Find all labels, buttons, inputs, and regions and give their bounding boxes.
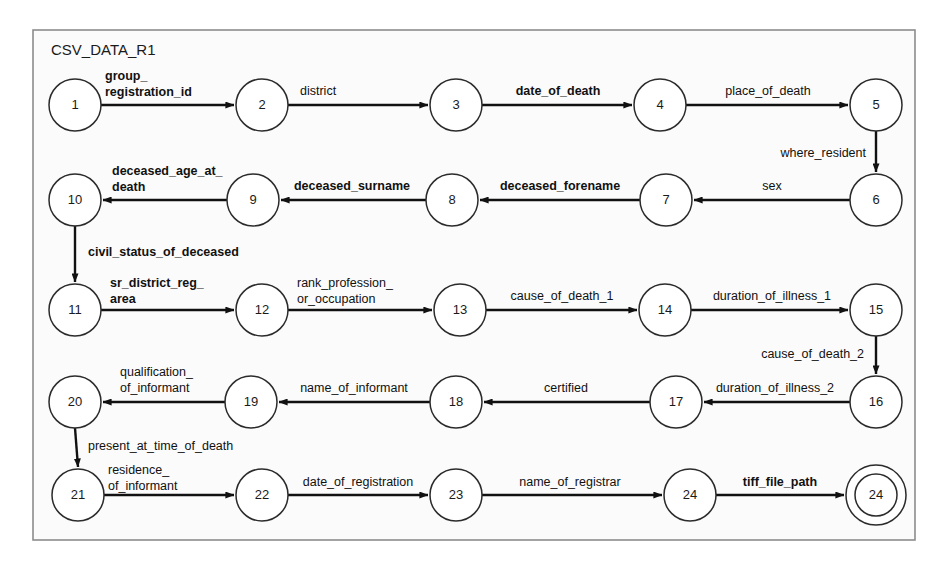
state-node-7[interactable]: 7 (640, 174, 692, 226)
state-node-label: 5 (872, 97, 879, 112)
fsm-diagram: CSV_DATA_R1 1234567891011121314151617181… (0, 0, 942, 565)
state-node-label: 2 (258, 97, 265, 112)
edge-label-e24: tiff_file_path (743, 475, 817, 489)
edge-label-e4: place_of_death (725, 84, 811, 98)
state-node-label: 15 (869, 302, 883, 317)
state-node-19[interactable]: 19 (225, 376, 277, 428)
state-node-label: 22 (255, 487, 269, 502)
edge-label-e3: date_of_death (516, 84, 601, 98)
edge-label-e15: cause_of_death_2 (761, 347, 864, 361)
edge-label-e16: duration_of_illness_2 (716, 381, 834, 395)
state-node-6[interactable]: 6 (850, 174, 902, 226)
state-node-label: 6 (872, 192, 879, 207)
state-node-15[interactable]: 15 (850, 284, 902, 336)
state-node-label: 16 (869, 394, 883, 409)
state-node-4[interactable]: 4 (634, 79, 686, 131)
edge-label-e17: certified (544, 381, 588, 395)
edge-label-e5: where_resident (780, 146, 867, 160)
state-node-12[interactable]: 12 (236, 284, 288, 336)
state-node-16[interactable]: 16 (850, 376, 902, 428)
state-node-1[interactable]: 1 (49, 79, 101, 131)
state-node-label: 13 (453, 302, 467, 317)
state-node-label: 12 (255, 302, 269, 317)
state-node-21[interactable]: 21 (52, 469, 104, 521)
state-node-18[interactable]: 18 (430, 376, 482, 428)
edge-label-e13: cause_of_death_1 (511, 289, 614, 303)
state-node-9[interactable]: 9 (227, 174, 279, 226)
state-node-20[interactable]: 20 (49, 376, 101, 428)
edge-label-e14: duration_of_illness_1 (713, 289, 831, 303)
edge-label-e7: deceased_forename (500, 179, 620, 193)
edge-label-e22: date_of_registration (303, 475, 414, 489)
state-node-label: 1 (71, 97, 78, 112)
state-node-5[interactable]: 5 (850, 79, 902, 131)
state-node-label: 24 (869, 487, 883, 502)
fsm-canvas: CSV_DATA_R1 1234567891011121314151617181… (0, 0, 942, 565)
state-node-10[interactable]: 10 (49, 174, 101, 226)
edge-label-e6: sex (762, 179, 782, 193)
state-node-label: 3 (452, 97, 459, 112)
edge-label-e18: name_of_informant (300, 381, 408, 395)
state-node-8[interactable]: 8 (426, 174, 478, 226)
state-node-label: 20 (68, 394, 82, 409)
state-node-17[interactable]: 17 (650, 376, 702, 428)
state-node-label: 17 (669, 394, 683, 409)
state-node-label: 19 (244, 394, 258, 409)
state-node-14[interactable]: 14 (639, 284, 691, 336)
state-node-24[interactable]: 24 (664, 469, 716, 521)
edge-label-e10: civil_status_of_deceased (88, 245, 239, 259)
state-node-label: 23 (449, 487, 463, 502)
state-node-13[interactable]: 13 (434, 284, 486, 336)
edge-label-e20: present_at_time_of_death (88, 439, 233, 453)
state-node-label: 4 (656, 97, 663, 112)
state-node-23[interactable]: 23 (430, 469, 482, 521)
state-node-label: 21 (71, 487, 85, 502)
state-node-11[interactable]: 11 (49, 284, 101, 336)
state-node-22[interactable]: 22 (236, 469, 288, 521)
diagram-title: CSV_DATA_R1 (51, 41, 155, 58)
state-node-label: 8 (448, 192, 455, 207)
state-node-label: 18 (449, 394, 463, 409)
edge-label-e2: district (300, 84, 337, 98)
state-node-label: 10 (68, 192, 82, 207)
state-node-label: 24 (683, 487, 697, 502)
edge-label-e8: deceased_surname (294, 179, 410, 193)
state-node-label: 7 (662, 192, 669, 207)
state-node-label: 14 (658, 302, 672, 317)
state-node-label: 9 (249, 192, 256, 207)
state-node-label: 11 (68, 302, 82, 317)
state-node-3[interactable]: 3 (430, 79, 482, 131)
state-node-24-accepting[interactable]: 24 (846, 465, 906, 525)
state-node-2[interactable]: 2 (236, 79, 288, 131)
edge-label-e23: name_of_registrar (519, 475, 620, 489)
